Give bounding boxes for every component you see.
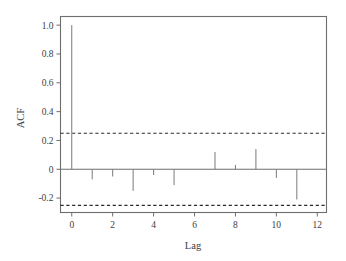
y-tick-label: 0.4 bbox=[42, 107, 54, 117]
y-tick-label: 0.2 bbox=[42, 136, 54, 146]
x-axis-title: Lag bbox=[185, 240, 202, 251]
x-tick-label: 4 bbox=[151, 220, 156, 230]
acf-spikes bbox=[72, 25, 297, 199]
y-axis-ticks: 1.00.80.60.40.20-0.2 bbox=[38, 21, 60, 204]
x-tick-label: 12 bbox=[313, 220, 323, 230]
x-tick-label: 8 bbox=[233, 220, 238, 230]
y-tick-label: 0.6 bbox=[42, 78, 54, 88]
y-axis-title: ACF bbox=[15, 108, 26, 129]
x-tick-label: 6 bbox=[192, 220, 197, 230]
y-tick-label: 1.0 bbox=[42, 21, 54, 31]
x-tick-label: 0 bbox=[69, 220, 74, 230]
y-tick-label: -0.2 bbox=[38, 193, 53, 203]
acf-plot-canvas: 1.00.80.60.40.20-0.2 024681012 Lag ACF bbox=[0, 0, 346, 261]
y-tick-label: 0 bbox=[49, 165, 54, 175]
plot-frame bbox=[61, 17, 327, 213]
x-tick-label: 2 bbox=[110, 220, 115, 230]
acf-plot-figure: 1.00.80.60.40.20-0.2 024681012 Lag ACF bbox=[0, 0, 346, 261]
y-tick-label: 0.8 bbox=[42, 49, 54, 59]
x-tick-label: 10 bbox=[272, 220, 282, 230]
x-axis-ticks: 024681012 bbox=[69, 213, 322, 230]
